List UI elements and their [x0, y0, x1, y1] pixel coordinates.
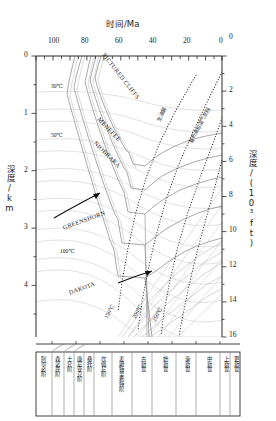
stage-label-maastrichtian: 麦斯特里希特阶: [118, 356, 124, 391]
top-tick-40: 40: [149, 37, 157, 45]
right-tick-8: 8: [229, 191, 233, 199]
right-tick-12: 12: [229, 261, 237, 269]
left-tick-0: 0: [24, 51, 28, 59]
top-tick-60: 60: [115, 37, 123, 45]
isotherm-label-100: 100℃: [60, 249, 75, 255]
stage-label-eocene: 始新世: [162, 356, 168, 371]
right-tick-6: 6: [229, 156, 233, 164]
stage-label-cenomanian: 森诺曼阶: [54, 356, 60, 376]
right-tick-10: 10: [229, 226, 237, 234]
annotation-arrows: [54, 193, 152, 283]
top-tick-80: 80: [81, 37, 89, 45]
right-tick-2: 2: [229, 86, 233, 94]
stage-label-turonian: 土仑阶: [66, 356, 72, 371]
right-tick-0: 0: [229, 33, 233, 41]
burial-curve-shadows: [70, 56, 136, 279]
right-tick-4: 4: [229, 121, 233, 129]
left-tick-2: 2: [24, 166, 28, 174]
maturity-line-4: [179, 160, 222, 336]
lower-bundle: [122, 242, 222, 337]
top-axis-title: 时间/Ma: [106, 20, 139, 29]
top-tick-20: 20: [183, 37, 191, 45]
stage-label-miocene: 中新世: [206, 356, 212, 371]
top-tick-100: 100: [48, 37, 59, 45]
isotherm-label-50: 50℃: [51, 133, 63, 139]
right-tick-16: 16: [229, 331, 237, 339]
top-tick-0: 0: [219, 37, 223, 45]
stage-label-oligocene: 渐新世: [184, 356, 190, 371]
stage-label-pliocene: 上新世: [223, 356, 229, 371]
stage-label-campanian: 坎佩尼阶: [100, 356, 106, 376]
left-tick-4: 4: [24, 281, 28, 289]
stage-label-paleocene: 古新世: [140, 356, 146, 371]
right-axis-title: 深度/(10³ft): [247, 150, 256, 248]
right-axis-ticks: [222, 56, 227, 337]
stage-label-pleistocene: 更新世: [233, 356, 239, 371]
left-tick-3: 3: [24, 223, 28, 231]
right-tick-14: 14: [229, 296, 237, 304]
stage-label-albian: 阿尔必阶: [40, 356, 46, 376]
stage-label-santonian: 桑托阶: [86, 356, 92, 371]
stage-label-coniacian: 康尼亚克阶: [76, 356, 82, 381]
stage-column: [36, 341, 240, 416]
isotherm-label-30: 30℃: [51, 84, 63, 90]
left-axis-ticks: [32, 56, 37, 314]
left-tick-1: 1: [24, 109, 28, 117]
left-axis-title: 深度/km: [5, 165, 14, 213]
top-axis-ticks: [36, 56, 222, 61]
